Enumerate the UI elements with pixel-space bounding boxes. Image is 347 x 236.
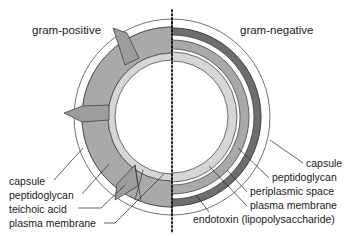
gn-label-plasma-membrane: plasma membrane (250, 199, 337, 211)
gp-label-capsule: capsule (9, 175, 45, 187)
gram-positive-half (64, 19, 172, 215)
gn-label-capsule: capsule (306, 157, 342, 169)
gram-positive-title: gram-positive (32, 24, 101, 36)
cell-wall-diagram: gram-positive gram-negative capsule pept… (0, 0, 347, 236)
gn-label-peptidoglycan: peptidoglycan (272, 171, 337, 183)
gp-label-plasma-membrane: plasma membrane (9, 217, 96, 229)
gp-label-teichoic-acid: teichoic acid (9, 203, 67, 215)
gram-negative-title: gram-negative (240, 24, 314, 36)
gn-label-endotoxin: endotoxin (lipopolysaccharide) (193, 213, 335, 225)
gn-label-periplasmic-space: periplasmic space (250, 185, 334, 197)
gn-leader-capsule (270, 140, 303, 163)
gp-leader-capsule (54, 148, 83, 180)
gp-label-peptidoglycan: peptidoglycan (9, 189, 74, 201)
teichoic-acid-wedge (64, 105, 109, 122)
